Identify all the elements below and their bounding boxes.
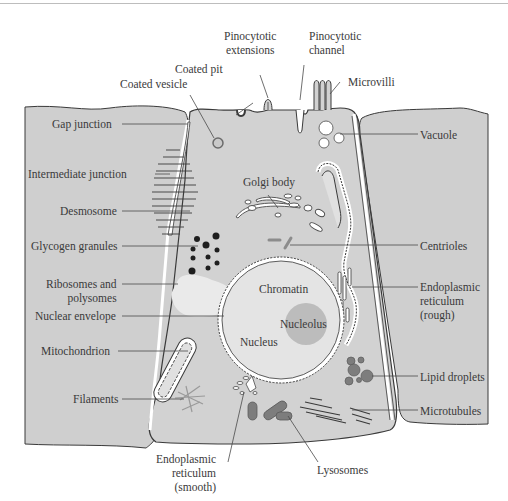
label-coated-vesicle: Coated vesicle [120,77,187,91]
label-mitochondrion: Mitochondrion [41,344,110,358]
label-lipid-droplets: Lipid droplets [420,370,485,384]
label-pinocytotic-channel: Pinocytotic channel [309,29,361,57]
label-microtubules: Microtubules [420,404,481,418]
label-chromatin: Chromatin [259,282,308,296]
label-glycogen-granules: Glycogen granules [31,239,118,253]
label-golgi-body: Golgi body [243,175,295,189]
label-filaments: Filaments [73,392,118,406]
label-endoplasmic-reticulum-rough: Endoplasmic reticulum (rough) [420,280,480,322]
label-lysosomes: Lysosomes [317,463,368,477]
label-ribosomes-polysomes: Ribosomes and polysomes [46,277,117,305]
label-vacuole: Vacuole [420,128,457,142]
label-coated-pit: Coated pit [175,62,223,76]
label-centrioles: Centrioles [420,239,467,253]
cell-diagram: Pinocytotic extensions Pinocytotic chann… [0,0,508,501]
label-nuclear-envelope: Nuclear envelope [35,309,116,323]
label-desmosome: Desmosome [60,204,117,218]
label-gap-junction: Gap junction [52,117,112,131]
page-header-rule [0,3,508,4]
coated-vesicle [213,138,223,148]
label-endoplasmic-reticulum-smooth: Endoplasmic reticulum (smooth) [156,452,216,494]
label-pinocytotic-extensions: Pinocytotic extensions [224,29,276,57]
microvilli [314,81,331,111]
label-nucleolus: Nucleolus [280,317,327,331]
label-intermediate-junction: Intermediate junction [28,167,127,181]
label-microvilli: Microvilli [348,75,395,89]
label-nucleus: Nucleus [240,335,278,349]
